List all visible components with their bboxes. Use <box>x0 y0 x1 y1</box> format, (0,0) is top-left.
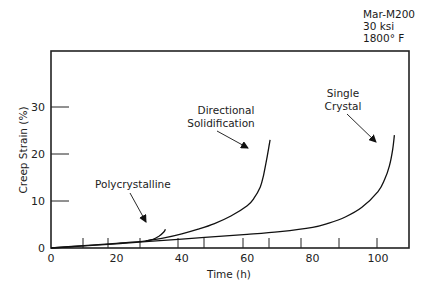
directional-arrow <box>217 131 248 148</box>
directional-label-line2: Solidification <box>187 117 254 129</box>
y-axis-label: Creep Strain (%) <box>17 107 29 194</box>
x-tick-label: 0 <box>48 252 55 265</box>
x-axis-label: Time (h) <box>206 268 251 280</box>
y-axis-ticks: 0102030 <box>31 101 69 255</box>
x-axis-ticks: 020406080100 <box>48 238 389 265</box>
single-crystal-label-line1: Single <box>327 87 359 99</box>
x-tick-label: 80 <box>306 252 320 265</box>
single-crystal-curve <box>51 135 394 248</box>
x-tick-label: 20 <box>109 252 123 265</box>
single-crystal-label-line2: Crystal <box>325 100 362 112</box>
single-crystal-arrow <box>347 114 376 142</box>
plot-frame <box>51 51 409 248</box>
curves <box>51 135 394 248</box>
x-tick-label: 60 <box>240 252 254 265</box>
y-tick-label: 20 <box>31 148 45 161</box>
y-tick-label: 10 <box>31 195 45 208</box>
directional-label-line1: Directional <box>198 104 255 116</box>
x-tick-label: 100 <box>368 252 389 265</box>
polycrystalline-arrow <box>130 193 146 222</box>
polycrystalline-label: Polycrystalline <box>95 178 171 190</box>
y-tick-label: 0 <box>38 242 45 255</box>
directional-solidification-curve <box>146 140 270 241</box>
y-tick-label: 30 <box>31 101 45 114</box>
x-tick-label: 40 <box>175 252 189 265</box>
creep-chart: 0102030 020406080100 Creep Strain (%) Ti… <box>0 0 427 289</box>
